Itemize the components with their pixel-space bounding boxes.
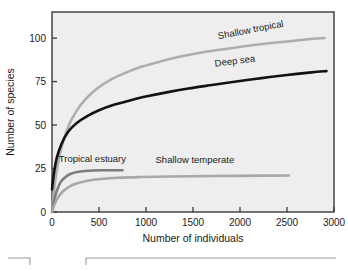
- y-tick-label-0: 0: [40, 207, 46, 218]
- figure-caption-bar: Figure 11.8: [0, 246, 348, 271]
- figure-container: 0255075100 050010001500200025003000 Shal…: [0, 0, 348, 271]
- y-tick-label-25: 25: [35, 163, 47, 174]
- x-axis-title: Number of individuals: [143, 232, 244, 244]
- y-axis-title: Number of species: [4, 68, 16, 156]
- series-label-tropical-estuary: Tropical estuary: [59, 153, 126, 164]
- y-tick-label-75: 75: [35, 76, 47, 87]
- caption-rule: [0, 246, 348, 271]
- x-tick-label-2500: 2500: [276, 217, 299, 228]
- x-tick-label-1000: 1000: [135, 217, 158, 228]
- x-tick-label-0: 0: [49, 217, 55, 228]
- x-tick-label-1500: 1500: [182, 217, 205, 228]
- series-label-shallow-temperate: Shallow temperate: [156, 154, 235, 165]
- y-tick-label-50: 50: [35, 120, 47, 131]
- species-accumulation-chart: 0255075100 050010001500200025003000 Shal…: [0, 0, 348, 246]
- x-tick-label-500: 500: [91, 217, 108, 228]
- chart-area: 0255075100 050010001500200025003000 Shal…: [0, 0, 348, 246]
- y-tick-label-100: 100: [29, 33, 46, 44]
- x-tick-label-2000: 2000: [229, 217, 252, 228]
- x-tick-label-3000: 3000: [323, 217, 346, 228]
